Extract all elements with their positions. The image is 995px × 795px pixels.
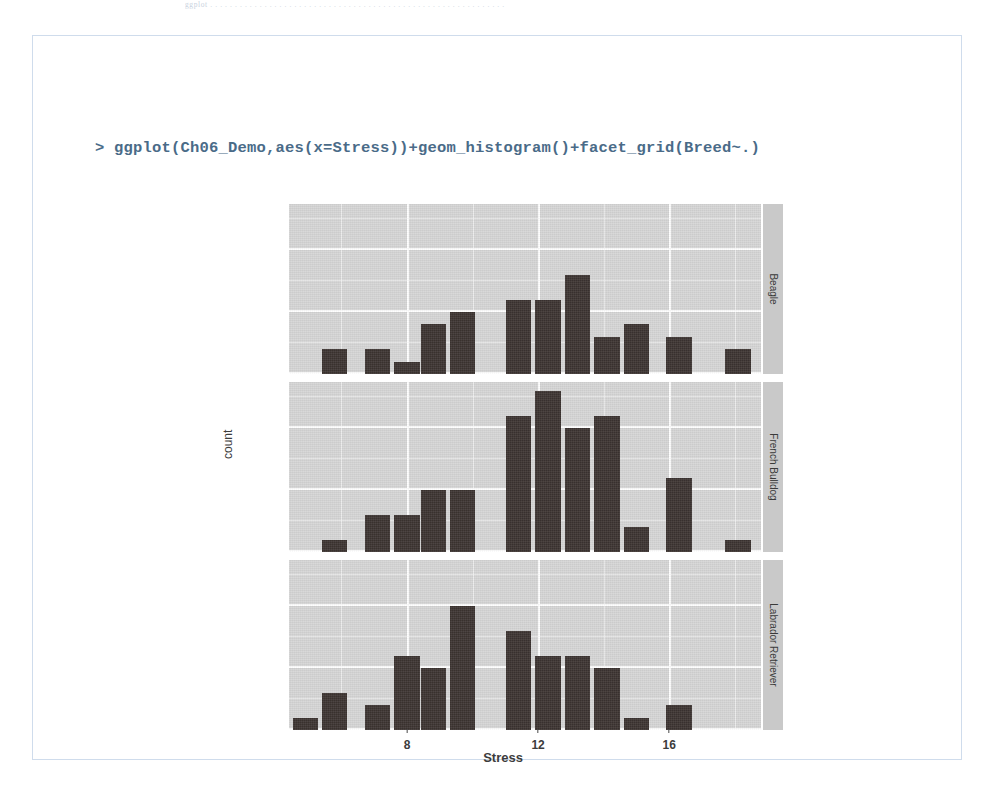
histogram-bar [535,656,560,730]
histogram-bar [450,606,475,730]
histogram-bar [365,515,390,552]
facet-strip-label: French Bulldog [768,433,779,500]
page-top-text-fragment: ggplot . . . . . . . . . . . . . . . . .… [185,0,825,9]
histogram-bar [535,391,560,552]
histogram-bar [365,705,390,730]
r-console-command[interactable]: > ggplot(Ch06_Demo,aes(x=Stress))+geom_h… [95,139,760,157]
histogram-bar [394,656,419,730]
histogram-bar [594,668,619,730]
histogram-bar [565,428,590,552]
x-axis-tickmark [538,729,539,733]
facet-strip: Labrador Retriever [763,560,783,730]
x-axis-tickmark [407,729,408,733]
histogram-bars [289,560,761,730]
facet-strip-label: Labrador Retriever [768,603,779,686]
histogram-bar [666,705,691,730]
content-frame: > ggplot(Ch06_Demo,aes(x=Stress))+geom_h… [32,35,962,760]
histogram-bars [289,382,761,552]
facet-row: 0510Labrador Retriever [289,560,783,730]
histogram-bar [624,527,649,552]
y-axis-title: count [221,430,235,459]
facet-panel-french-bulldog: 0510 [289,382,761,552]
page-root: ggplot . . . . . . . . . . . . . . . . .… [0,0,995,795]
histogram-bar [594,337,619,374]
facet-panel-labrador-retriever: 0510 [289,560,761,730]
histogram-bar [421,324,446,374]
histogram-bar [421,490,446,552]
histogram-bar [725,540,750,552]
facet-row: 0510Beagle [289,204,783,374]
facet-panels: 0510Beagle0510French Bulldog0510Labrador… [289,204,783,729]
facet-row: 0510French Bulldog [289,382,783,552]
facet-strip-label: Beagle [768,273,779,304]
histogram-bar [666,478,691,552]
histogram-bar [725,349,750,374]
histogram-bar [322,693,347,730]
histogram-bar [506,300,531,374]
histogram-bar [565,275,590,374]
histogram-bar [624,324,649,374]
histogram-bar [450,490,475,552]
histogram-bar [666,337,691,374]
histogram-bars [289,204,761,374]
histogram-bar [506,416,531,552]
x-axis-title: Stress [223,750,783,765]
ggplot-figure: count 0510Beagle0510French Bulldog0510La… [223,204,783,774]
histogram-bar [594,416,619,552]
histogram-bar [450,312,475,374]
histogram-bar [322,349,347,374]
histogram-bar [421,668,446,730]
histogram-bar [394,515,419,552]
facet-strip: French Bulldog [763,382,783,552]
histogram-bar [535,300,560,374]
histogram-bar [365,349,390,374]
histogram-bar [322,540,347,552]
facet-strip: Beagle [763,204,783,374]
histogram-bar [565,656,590,730]
facet-panel-beagle: 0510 [289,204,761,374]
x-axis-tickmark [669,729,670,733]
histogram-bar [394,362,419,374]
histogram-bar [506,631,531,730]
